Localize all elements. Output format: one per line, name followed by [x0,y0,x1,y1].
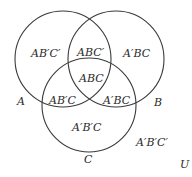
universe-label-u: U [180,158,190,171]
set-label-b: B [153,96,162,109]
set-label-a: A [16,95,25,108]
region-bc-only-label: A′BC [102,94,131,107]
region-a-only-label: AB′C′ [30,47,61,60]
region-none-label: A′B′C′ [135,136,168,149]
region-ac-only-label: AB′C [48,94,77,107]
venn-diagram: AB′C′ ABC′ A′BC ABC AB′C A′BC A′B′C A′B′… [0,0,192,177]
region-ab-only-label: ABC′ [76,46,105,59]
set-label-c: C [84,153,93,166]
region-c-only-label: A′B′C [71,121,102,134]
region-b-only-label: A′BC [122,47,151,60]
region-abc-label: ABC [78,72,104,85]
